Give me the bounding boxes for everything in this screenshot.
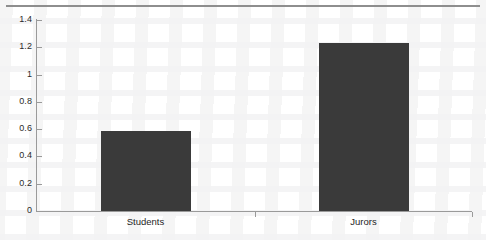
x-axis-line (36, 211, 472, 212)
x-axis-label-jurors: Jurors (304, 216, 424, 227)
y-tick-mark (37, 156, 42, 157)
y-tick-label: 0.2 (19, 179, 32, 188)
y-tick-label: 0.4 (19, 151, 32, 160)
x-axis-label-students: Students (86, 216, 206, 227)
y-tick-mark (37, 75, 42, 76)
y-tick-mark (37, 47, 42, 48)
y-tick-mark (37, 129, 42, 130)
bar-students (101, 131, 191, 211)
y-tick-label: 1.4 (19, 15, 32, 24)
y-tick-mark (37, 211, 42, 212)
y-tick-label: 0.8 (19, 97, 32, 106)
plot-area: 00.20.40.60.811.21.4 StudentsJurors (0, 0, 486, 240)
x-tick-mark (255, 212, 256, 217)
bar-chart-figure: 00.20.40.60.811.21.4 StudentsJurors (0, 0, 486, 240)
y-tick-label: 0.6 (19, 124, 32, 133)
y-tick-label: 1 (27, 70, 32, 79)
y-tick-mark (37, 184, 42, 185)
y-tick-mark (37, 20, 42, 21)
y-tick-label: 0 (27, 206, 32, 215)
bar-jurors (319, 43, 409, 211)
y-tick-label: 1.2 (19, 42, 32, 51)
y-tick-mark (37, 102, 42, 103)
x-tick-mark (472, 212, 473, 217)
